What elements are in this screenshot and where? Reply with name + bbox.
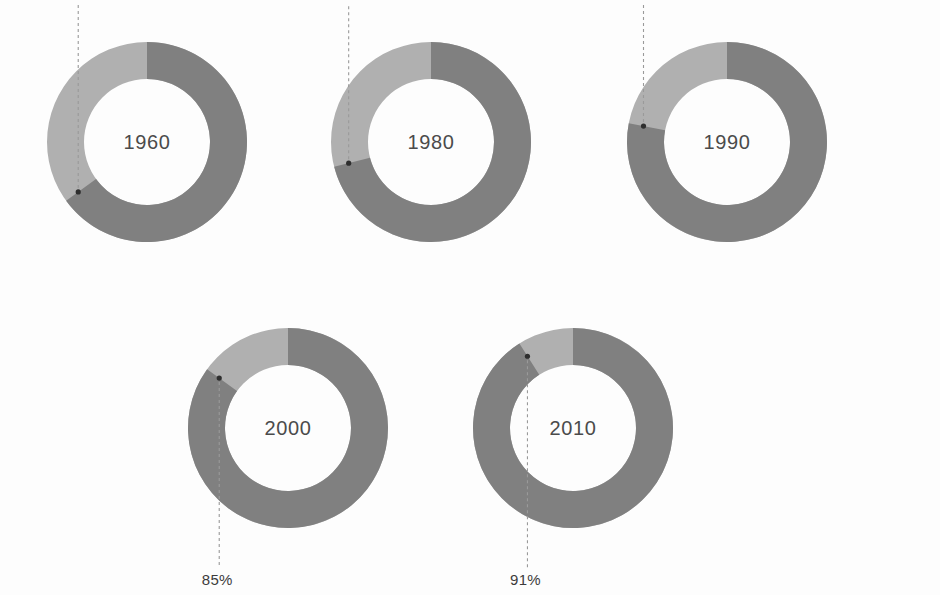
donut-percent-label: 65%: [79, 0, 110, 1]
value-marker-dot: [525, 354, 530, 359]
donut-year-label: 1990: [704, 131, 751, 153]
donut-percent-label: 71%: [349, 0, 380, 1]
donut-percent-label: 91%: [510, 571, 541, 588]
donut-chart-1990: 199078%: [577, 0, 877, 292]
donut-year-label: 1980: [408, 131, 455, 153]
donut-year-label: 2010: [550, 417, 597, 439]
donut-year-label: 1960: [124, 131, 171, 153]
donut-chart-1980: 198071%: [281, 0, 581, 292]
value-marker-dot: [76, 189, 81, 194]
donut-chart-2000: 200085%: [138, 278, 438, 578]
donut-percent-label: 85%: [202, 571, 233, 588]
donut-percent-label: 78%: [644, 0, 675, 1]
value-marker-dot: [346, 161, 351, 166]
value-marker-dot: [217, 375, 222, 380]
donut-chart-figure: 196065%198071%199078%200085%201091%: [0, 0, 940, 595]
donut-chart-1960: 196065%: [0, 0, 297, 292]
donut-chart-2010: 201091%: [423, 278, 723, 578]
value-marker-dot: [641, 123, 646, 128]
donut-year-label: 2000: [265, 417, 312, 439]
